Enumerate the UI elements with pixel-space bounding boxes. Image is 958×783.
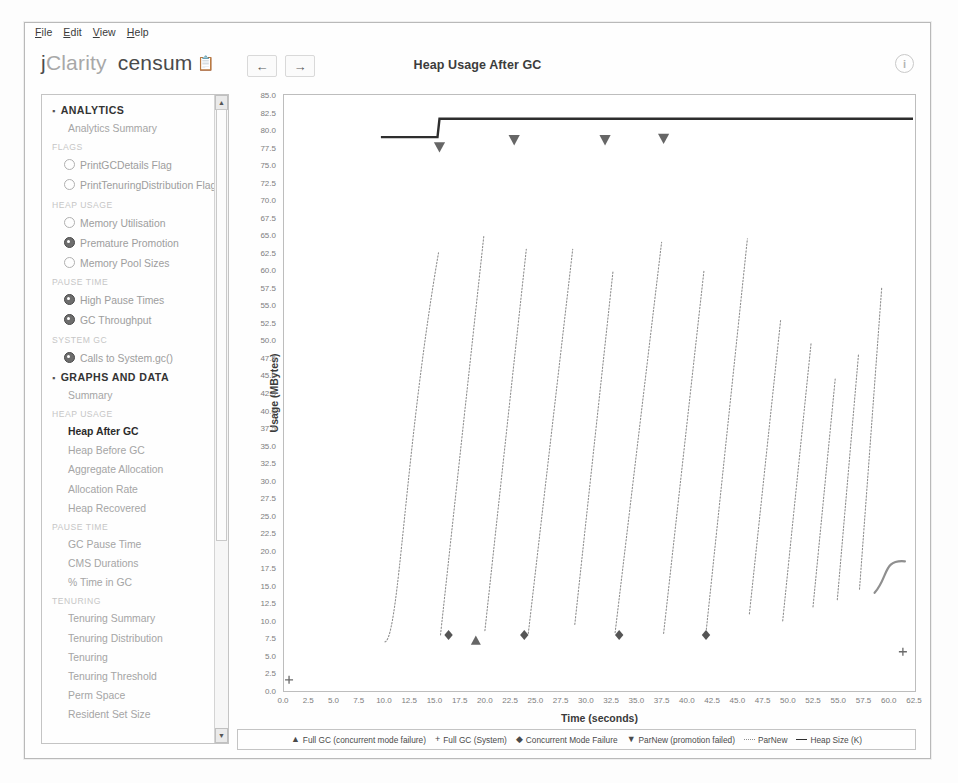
plot-wrapper: Usage (MBytes) 0.02.55.07.510.012.515.01… bbox=[237, 94, 916, 692]
sidebar-scrollbar[interactable]: ▲ ▼ bbox=[214, 95, 228, 743]
scroll-up-arrow-icon[interactable]: ▲ bbox=[215, 95, 228, 110]
sidebar-item-label: High Pause Times bbox=[80, 295, 164, 306]
parnew-sawtooth-1 bbox=[441, 235, 484, 635]
x-tick-label: 0.0 bbox=[277, 696, 288, 705]
menu-item-view[interactable]: View bbox=[93, 26, 116, 38]
menu-item-edit[interactable]: Edit bbox=[63, 26, 82, 38]
chart-legend: ▲Full GC (concurrent mode failure)+Full … bbox=[237, 729, 916, 750]
y-tick-label: 85.0 bbox=[260, 91, 276, 100]
sidebar-item-perm-space[interactable]: Perm Space bbox=[42, 686, 215, 705]
y-tick-label: 77.5 bbox=[260, 143, 276, 152]
ring-icon bbox=[64, 237, 75, 248]
sidebar-item-heap-after-gc[interactable]: Heap After GC bbox=[42, 422, 215, 441]
sidebar-subheader-tenuring: TENURING bbox=[42, 592, 215, 609]
parnew-sawtooth-10 bbox=[813, 379, 835, 607]
y-tick-label: 0.0 bbox=[265, 687, 276, 696]
legend-glyph-icon: ◆ bbox=[516, 735, 523, 744]
legend-label: ParNew (promotion failed) bbox=[639, 735, 735, 745]
y-tick-label: 30.0 bbox=[260, 476, 276, 485]
legend-entry-heap-size-k: Heap Size (K) bbox=[796, 735, 862, 745]
ring-icon bbox=[64, 314, 75, 325]
x-tick-label: 32.5 bbox=[603, 696, 619, 705]
sidebar-item-tenuring-distribution[interactable]: Tenuring Distribution bbox=[42, 629, 215, 648]
sidebar-item-tenuring[interactable]: Tenuring bbox=[42, 648, 215, 667]
sidebar-item-label: PrintGCDetails Flag bbox=[80, 160, 172, 171]
parnew-sawtooth-8 bbox=[749, 319, 780, 614]
sidebar-item-summary[interactable]: Summary bbox=[42, 386, 215, 405]
x-tick-label: 10.0 bbox=[376, 696, 392, 705]
menu-item-help[interactable]: Help bbox=[127, 26, 149, 38]
marker-concurrent-mode-failure-0 bbox=[444, 630, 452, 640]
sidebar-item-premature-promotion[interactable]: Premature Promotion bbox=[42, 233, 215, 253]
legend-label: Full GC (concurrent mode failure) bbox=[303, 735, 426, 745]
y-tick-label: 47.5 bbox=[260, 353, 276, 362]
legend-dashed-line-icon bbox=[744, 739, 755, 740]
ring-icon bbox=[64, 294, 75, 305]
menu-item-file[interactable]: File bbox=[35, 26, 52, 38]
y-tick-label: 70.0 bbox=[260, 196, 276, 205]
marker-parnew-promotion-failed-3 bbox=[658, 134, 669, 144]
legend-entry-full-gc-concurrent-mode-failure: ▲Full GC (concurrent mode failure) bbox=[291, 735, 426, 745]
x-tick-label: 40.0 bbox=[679, 696, 695, 705]
sidebar-item-high-pause-times[interactable]: High Pause Times bbox=[42, 290, 215, 310]
bullet-icon: ▪ bbox=[52, 106, 56, 116]
sidebar-subheader-pause-time: PAUSE TIME bbox=[42, 518, 215, 535]
y-tick-label: 55.0 bbox=[260, 301, 276, 310]
sidebar-item-label: Heap Recovered bbox=[68, 503, 146, 514]
y-tick-label: 50.0 bbox=[260, 336, 276, 345]
sidebar-item-calls-to-system-gc[interactable]: Calls to System.gc() bbox=[42, 348, 215, 368]
sidebar-item-aggregate-allocation[interactable]: Aggregate Allocation bbox=[42, 460, 215, 479]
sidebar-group-analytics[interactable]: ▪ANALYTICS bbox=[42, 101, 215, 119]
sidebar-item-gc-throughput[interactable]: GC Throughput bbox=[42, 310, 215, 330]
scrollbar-thumb[interactable] bbox=[216, 109, 227, 541]
sidebar-item-tenuring-summary[interactable]: Tenuring Summary bbox=[42, 609, 215, 628]
sidebar-item-label: Memory Utilisation bbox=[80, 218, 165, 229]
y-tick-label: 62.5 bbox=[260, 248, 276, 257]
parnew-sawtooth-2 bbox=[485, 249, 526, 630]
sidebar-item-allocation-rate[interactable]: Allocation Rate bbox=[42, 479, 215, 498]
sidebar-item-tenuring-threshold[interactable]: Tenuring Threshold bbox=[42, 667, 215, 686]
sidebar-group-graphs-and-data[interactable]: ▪GRAPHS AND DATA bbox=[42, 368, 215, 386]
parnew-sawtooth-5 bbox=[615, 242, 662, 633]
sidebar-item-heap-recovered[interactable]: Heap Recovered bbox=[42, 499, 215, 518]
marker-parnew-promotion-failed-0 bbox=[434, 142, 445, 152]
marker-concurrent-mode-failure-2 bbox=[615, 630, 623, 640]
sidebar-item-label: Premature Promotion bbox=[80, 238, 179, 249]
y-tick-label: 80.0 bbox=[260, 126, 276, 135]
parnew-sawtooth-11 bbox=[837, 354, 858, 599]
sidebar-item-printtenuringdistribution-flag[interactable]: PrintTenuringDistribution Flag bbox=[42, 175, 215, 195]
y-tick-label: 5.0 bbox=[265, 651, 276, 660]
marker-parnew-promotion-failed-2 bbox=[599, 135, 610, 145]
sidebar-group-label: ANALYTICS bbox=[61, 104, 125, 116]
y-axis-ticks: 0.02.55.07.510.012.515.017.520.022.525.0… bbox=[243, 94, 279, 692]
scroll-down-arrow-icon[interactable]: ▼ bbox=[215, 728, 228, 743]
sidebar-item-label: % Time in GC bbox=[68, 577, 132, 588]
sidebar-item-resident-set-size[interactable]: Resident Set Size bbox=[42, 705, 215, 724]
sidebar-item-memory-utilisation[interactable]: Memory Utilisation bbox=[42, 213, 215, 233]
marker-concurrent-mode-failure-3 bbox=[702, 630, 710, 640]
sidebar-item-gc-pause-time[interactable]: GC Pause Time bbox=[42, 535, 215, 554]
legend-entry-parnew: ParNew bbox=[744, 735, 788, 745]
x-tick-label: 20.0 bbox=[477, 696, 493, 705]
sidebar-item-printgcdetails-flag[interactable]: PrintGCDetails Flag bbox=[42, 155, 215, 175]
x-tick-label: 30.0 bbox=[578, 696, 594, 705]
y-tick-label: 37.5 bbox=[260, 424, 276, 433]
sidebar-item-time-in-gc[interactable]: % Time in GC bbox=[42, 573, 215, 592]
info-icon[interactable]: i bbox=[895, 54, 914, 73]
sidebar-subheader-system-gc: SYSTEM GC bbox=[42, 331, 215, 348]
y-tick-label: 15.0 bbox=[260, 581, 276, 590]
sidebar-item-label: Heap After GC bbox=[68, 426, 139, 437]
legend-label: Full GC (System) bbox=[443, 735, 507, 745]
y-tick-label: 82.5 bbox=[260, 108, 276, 117]
sidebar-item-label: Summary bbox=[68, 390, 112, 401]
plot-area[interactable] bbox=[283, 94, 916, 692]
y-tick-label: 42.5 bbox=[260, 389, 276, 398]
x-tick-label: 37.5 bbox=[654, 696, 670, 705]
sidebar-item-cms-durations[interactable]: CMS Durations bbox=[42, 554, 215, 573]
legend-label: ParNew bbox=[758, 735, 788, 745]
sidebar-item-memory-pool-sizes[interactable]: Memory Pool Sizes bbox=[42, 253, 215, 273]
sidebar-subheader-heap-usage: HEAP USAGE bbox=[42, 405, 215, 422]
sidebar-item-analytics-summary[interactable]: Analytics Summary bbox=[42, 119, 215, 138]
ring-icon bbox=[64, 257, 75, 268]
sidebar-item-heap-before-gc[interactable]: Heap Before GC bbox=[42, 441, 215, 460]
